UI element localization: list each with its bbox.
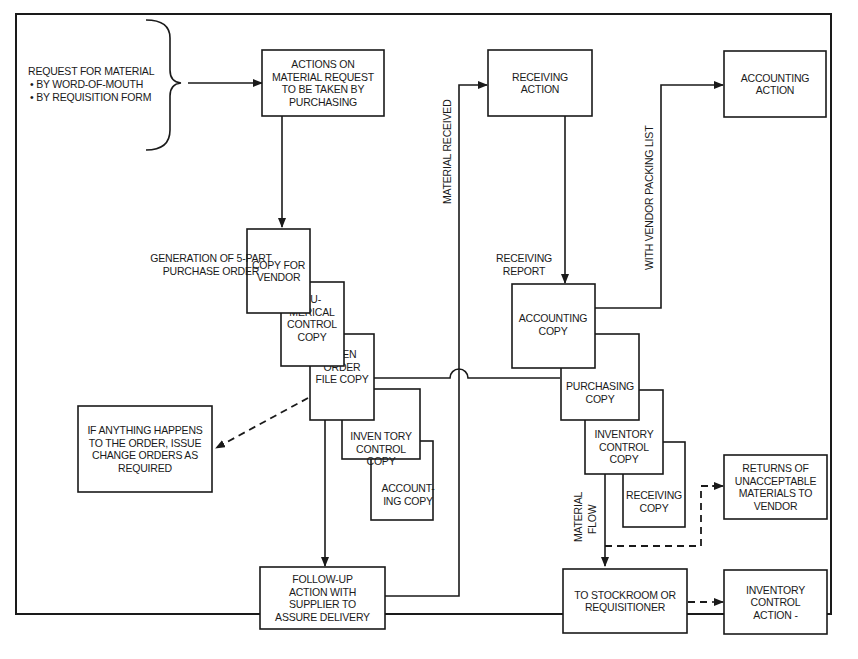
box-text-line: ASSURE DELIVERY [275,611,370,623]
box-change-orders: IF ANYTHING HAPPENSTO THE ORDER, ISSUECH… [78,406,212,492]
box-text-line: COPY [298,331,327,343]
box-text-line: ACTIONS ON [291,58,354,70]
box-inventory-control-action: INVENTORYCONTROLACTION - [724,570,827,634]
box-text-line: CONTROL [356,443,406,455]
box-text-line: ACTION [756,84,794,96]
generation-label-line2: PURCHASE ORDER [163,265,260,277]
material-received-label: MATERIAL RECEIVED [441,99,453,204]
box-accounting-action: ACCOUNTINGACTION [724,51,826,117]
request-bullet-word-of-mouth: • BY WORD-OF-MOUTH [30,78,143,90]
box-text-line: CHANGE ORDERS AS [92,449,198,461]
material-flow-label-line2: FLOW [586,504,598,534]
box-text-line: ACCOUNT- [381,482,435,494]
box-text-line: COPY [640,502,669,514]
receiving-report-label-line2: REPORT [503,265,546,277]
box-text-line: RECEIVING [626,489,682,501]
arrow-vendor-packing-list [595,85,723,308]
box-text-line: ACTION WITH [289,586,356,598]
box-text-line: PURCHASING [289,96,357,108]
box-returns: RETURNS OFUNACCEPTABLEMATERIALS TOVENDOR [724,455,827,519]
box-text-line: CONTROL [287,318,337,330]
vendor-packing-list-label: WITH VENDOR PACKING LIST [643,125,655,270]
box-text-line: FILE COPY [315,373,368,385]
box-text-line: SUPPLIER TO [289,598,356,610]
generation-label-line1: GENERATION OF 5-PART [150,252,272,264]
box-text-line: PURCHASING [566,380,634,392]
box-text-line: COPY [539,325,568,337]
box-text-line: REQUISITIONER [585,601,666,613]
box-text-line: MATERIAL REQUEST [272,71,375,83]
arrow-change-orders [216,398,308,448]
box-text-line: RECEIVING [512,71,568,83]
request-title: REQUEST FOR MATERIAL [28,65,155,77]
material-flow-label-line1: MATERIAL [572,492,584,542]
box-follow-up: FOLLOW-UPACTION WITHSUPPLIER TOASSURE DE… [260,567,385,629]
box-purchasing-action: ACTIONS ONMATERIAL REQUESTTO BE TAKEN BY… [262,50,384,116]
box-text-line: COPY [367,455,396,467]
box-text-line: VENDOR [257,271,301,283]
box-text-line: COPY [610,453,639,465]
box-stockroom: TO STOCKROOM ORREQUISITIONER [563,569,687,633]
box-text-line: INVENTORY [594,428,653,440]
box-text-line: REQUIRED [118,462,172,474]
box-text-line: TO THE ORDER, ISSUE [89,437,202,449]
box-text-line: IF ANYTHING HAPPENS [87,424,202,436]
box-receiving-action: RECEIVINGACTION [488,50,592,116]
box-text-line: FOLLOW-UP [292,573,353,585]
box-rr-accounting-copy: ACCOUNTINGCOPY [512,284,595,368]
box-text-line: ACTION - [753,609,798,621]
box-text-line: VENDOR [754,500,798,512]
diagram-frame [16,14,831,614]
box-text-line: UNACCEPTABLE [735,475,817,487]
box-text-line: MATERIALS TO [739,487,812,499]
box-text-line: TO BE TAKEN BY [282,83,365,95]
box-text-line: ING COPY [383,495,433,507]
box-text-line: RETURNS OF [742,462,808,474]
box-text-line: ACCOUNTING [519,312,588,324]
receiving-report-label-line1: RECEIVING [496,252,552,264]
box-text-line: CONTROL [751,596,801,608]
box-text-line: CONTROL [599,441,649,453]
box-text-line: INVEN TORY [350,430,412,442]
request-bullet-requisition-form: • BY REQUISITION FORM [30,91,151,103]
request-brace [146,20,181,150]
box-text-line: INVENTORY [746,584,805,596]
box-text-line: COPY [586,393,615,405]
purchasing-flow-diagram: ACTIONS ONMATERIAL REQUESTTO BE TAKEN BY… [0,0,858,659]
box-text-line: ACCOUNTING [741,72,810,84]
box-text-line: TO STOCKROOM OR [574,589,676,601]
box-text-line: ACTION [521,83,559,95]
